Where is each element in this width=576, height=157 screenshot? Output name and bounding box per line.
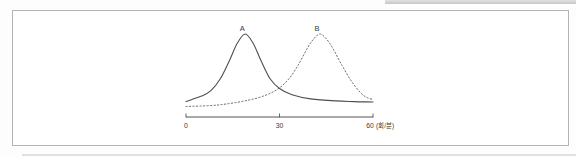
curve-a-label: A (240, 24, 245, 33)
curve-a-path (186, 34, 373, 102)
x-axis-tick-label-30: 30 (276, 122, 284, 129)
chart-canvas: AB03060(회/분) (0, 0, 576, 157)
curve-b-label: B (314, 24, 319, 33)
scanned-figure: AB03060(회/분) (0, 0, 576, 157)
x-axis-tick-label-0: 0 (184, 122, 188, 129)
x-axis-unit-label: (회/분) (376, 122, 394, 130)
x-axis-tick-label-60: 60 (366, 122, 374, 129)
curve-b-path (186, 34, 373, 107)
